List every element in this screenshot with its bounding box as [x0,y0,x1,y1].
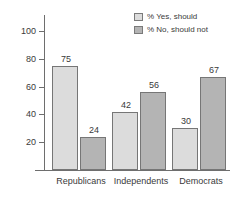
bar-value-independents-yes: 42 [111,101,141,110]
plot-area: 75 24 42 56 30 67 [44,17,225,170]
bar-democrats-no[interactable]: 67 [200,77,226,170]
bar-value-democrats-no: 67 [199,66,229,75]
y-tick-label-60: 60 [2,83,36,92]
y-tick-label-100: 100 [2,27,36,36]
bar-independents-yes[interactable]: 42 [112,112,138,170]
bar-republicans-no[interactable]: 24 [80,137,106,170]
bar-value-democrats-yes: 30 [171,117,201,126]
bar-value-republicans-no: 24 [79,126,109,135]
bar-value-republicans-yes: 75 [51,55,81,64]
y-tick-label-20: 20 [2,138,36,147]
x-axis-label-republicans: Republicans [56,176,106,186]
bar-value-independents-no: 56 [139,81,169,90]
bar-democrats-yes[interactable]: 30 [172,128,198,170]
bar-group-democrats: 30 67 [172,17,230,170]
x-axis-label-independents: Independents [114,176,169,186]
bar-republicans-yes[interactable]: 75 [52,66,78,170]
y-tick-label-40: 40 [2,110,36,119]
bar-independents-no[interactable]: 56 [140,92,166,170]
x-axis-baseline [35,170,230,171]
bar-group-republicans: 75 24 [52,17,110,170]
bar-chart: % Yes, should % No, should not 100 80 60… [0,0,239,207]
bar-group-independents: 42 56 [112,17,170,170]
x-axis-label-democrats: Democrats [179,176,223,186]
y-tick-label-80: 80 [2,55,36,64]
